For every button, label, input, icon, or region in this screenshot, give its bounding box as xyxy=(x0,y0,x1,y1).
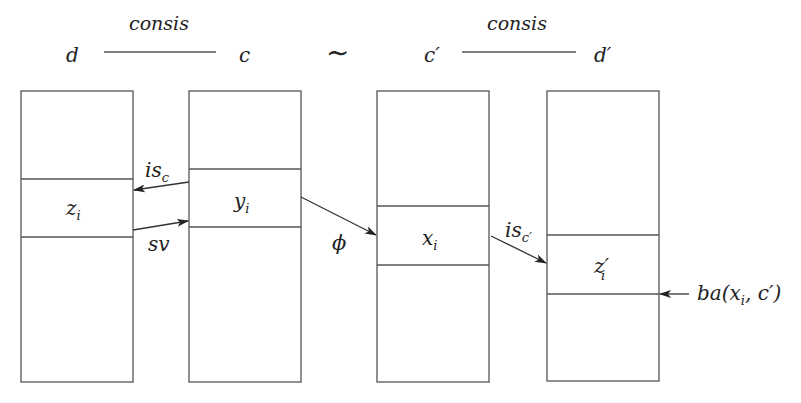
equivalence-symbol: ∼ xyxy=(326,36,349,69)
arrow-sv xyxy=(133,221,188,230)
label-d-prime: d′ xyxy=(594,43,612,67)
label-d: d xyxy=(66,43,79,67)
diagram-canvas: d consis c ∼ c′ consis d′ zi yi xi z′i xyxy=(0,0,801,403)
label-c-prime: c′ xyxy=(424,43,440,67)
memory-box-c xyxy=(189,91,301,382)
memory-box-d-prime xyxy=(547,91,659,381)
arrow-label-phi: ϕ xyxy=(332,231,346,255)
relation-consis-left: consis xyxy=(129,12,189,34)
column-d-prime: z′i xyxy=(547,91,659,381)
column-c-prime: xi xyxy=(377,91,489,382)
header-right-pair: c′ consis d′ xyxy=(424,12,612,67)
arrow-label-ba: ba(xi, c′) xyxy=(697,281,781,308)
arrow-label-is-c: isc xyxy=(145,158,170,185)
arrow-label-is-c-prime: isc′ xyxy=(505,218,532,245)
column-d: zi xyxy=(21,91,133,382)
arrow-phi xyxy=(301,197,376,235)
arrow-label-sv: sv xyxy=(148,232,170,256)
label-c: c xyxy=(239,43,250,67)
relation-consis-right: consis xyxy=(487,12,547,34)
header-left-pair: d consis c xyxy=(66,12,250,67)
column-c: yi xyxy=(189,91,301,382)
